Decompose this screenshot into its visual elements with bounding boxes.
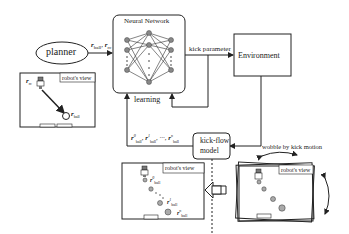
goal-marker-2 bbox=[57, 124, 72, 127]
robot-icon bbox=[255, 169, 262, 179]
wobble-label: wobble by kick motion bbox=[262, 144, 322, 151]
ball-trajectory-point bbox=[279, 205, 285, 211]
bottom-left-view-caption: robot's view bbox=[165, 165, 194, 171]
kick-flow-label-line1: kick-flow bbox=[200, 137, 229, 145]
kick-parameter-label: kick parameter bbox=[189, 46, 231, 53]
ball-icon bbox=[63, 113, 70, 120]
ball-trajectory-point bbox=[143, 178, 147, 182]
kick-flow-label-line2: model bbox=[200, 147, 219, 155]
neural-network-title: Neural Network bbox=[124, 18, 169, 25]
wobble-vertical-arrow bbox=[325, 178, 329, 214]
right-view-caption: robot's view bbox=[281, 167, 310, 173]
ball-trajectory-point bbox=[165, 209, 171, 215]
wobble-horizontal-arrow bbox=[262, 152, 297, 156]
goal-marker-1 bbox=[40, 124, 55, 127]
top-left-view-caption: robot's view bbox=[62, 75, 91, 81]
ball-position-label: rball bbox=[71, 111, 80, 119]
planner-to-nn-label: rball, rrc bbox=[91, 42, 111, 50]
environment-to-kickflow-arrow bbox=[230, 76, 261, 146]
hollow-left-arrow bbox=[205, 182, 226, 198]
environment-label: Environment bbox=[238, 52, 280, 60]
ball-trajectory-point bbox=[257, 180, 261, 184]
goal-marker bbox=[257, 214, 271, 218]
ball-trajectory-point bbox=[271, 197, 276, 202]
goal-marker bbox=[144, 215, 158, 219]
ball-trajectory-point bbox=[149, 187, 153, 191]
ball-trajectory-point bbox=[262, 187, 266, 191]
planner-label: planner bbox=[46, 47, 76, 57]
ball-trajectory-point bbox=[158, 201, 163, 206]
ball-label-1: r1ball bbox=[167, 198, 177, 207]
ball-sequence-label: r0ball, r1ball, ···, rnball bbox=[131, 134, 179, 144]
learning-label: learning bbox=[134, 96, 160, 104]
ball-label-n: rnball bbox=[177, 209, 187, 218]
ball-label-0: r0ball bbox=[150, 176, 160, 185]
robot-position-label: rrc bbox=[26, 78, 32, 86]
